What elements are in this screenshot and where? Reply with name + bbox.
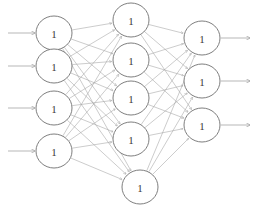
connection-edge (68, 45, 117, 86)
hidden-node-3-label: 1 (128, 93, 134, 105)
connection-edge (71, 158, 122, 179)
connection-edge (70, 30, 115, 57)
output-node-3-label: 1 (199, 120, 205, 132)
output-node-2[interactable]: 1 (184, 64, 220, 98)
neural-network-canvas: 111111111111 (0, 0, 264, 213)
connection-edge (149, 44, 184, 55)
connection-edge (71, 39, 112, 54)
output-node-1-label: 1 (199, 33, 205, 45)
nodes-group: 111111111111 (36, 3, 220, 204)
output-node-2-label: 1 (199, 76, 205, 88)
connection-edge (144, 72, 188, 112)
connection-edge (69, 70, 114, 98)
hidden-node-3[interactable]: 1 (113, 81, 149, 115)
connection-edge (66, 74, 119, 137)
hidden-node-4-label: 1 (128, 134, 134, 146)
connection-edge (145, 50, 188, 86)
hidden-node-1[interactable]: 1 (113, 3, 149, 37)
input-node-3[interactable]: 1 (36, 91, 72, 125)
connection-edge (149, 65, 184, 75)
input-node-3-label: 1 (51, 103, 57, 115)
output-node-3[interactable]: 1 (184, 108, 220, 142)
input-node-4[interactable]: 1 (36, 134, 72, 168)
output-node-1[interactable]: 1 (184, 21, 220, 55)
hidden-node-5[interactable]: 1 (122, 170, 158, 204)
input-node-1[interactable]: 1 (36, 16, 72, 50)
neural-network-diagram: 111111111111 (0, 0, 264, 213)
hidden-node-2[interactable]: 1 (113, 43, 149, 77)
connection-edge (63, 36, 122, 136)
hidden-node-2-label: 1 (128, 55, 134, 67)
input-node-2-label: 1 (51, 61, 57, 73)
input-node-1-label: 1 (51, 28, 57, 40)
hidden-node-5-label: 1 (137, 182, 143, 194)
connection-edge (149, 129, 183, 136)
input-node-4-label: 1 (51, 146, 57, 158)
input-node-2[interactable]: 1 (36, 49, 72, 83)
hidden-node-4[interactable]: 1 (113, 122, 149, 156)
connection-edge (72, 23, 112, 30)
connection-edge (149, 25, 183, 34)
hidden-node-1-label: 1 (128, 15, 134, 27)
output-arrows-group (221, 38, 250, 125)
input-arrows-group (8, 33, 35, 151)
